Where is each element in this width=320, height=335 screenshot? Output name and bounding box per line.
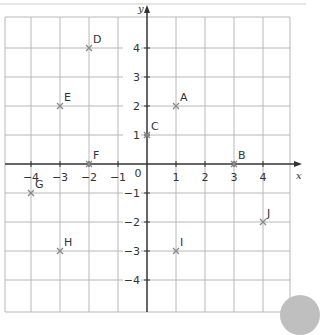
corner-decoration bbox=[280, 295, 320, 335]
x-axis-label: x bbox=[296, 170, 302, 181]
y-tick-label: 3 bbox=[133, 71, 140, 84]
point-label: D bbox=[93, 33, 101, 46]
y-tick-label: 2 bbox=[133, 100, 140, 113]
x-tick-label: 3 bbox=[231, 171, 238, 184]
y-axis-arrow-icon bbox=[144, 5, 150, 13]
x-tick-label: 2 bbox=[202, 171, 209, 184]
x-tick-label: −1 bbox=[110, 171, 126, 184]
point-label: H bbox=[64, 236, 72, 249]
y-tick-label: 4 bbox=[133, 42, 140, 55]
x-axis-arrow-icon bbox=[294, 161, 302, 167]
y-tick-label: −3 bbox=[124, 245, 140, 258]
x-tick-label: −2 bbox=[81, 171, 97, 184]
y-tick-label: −2 bbox=[124, 216, 140, 229]
y-tick-label: −1 bbox=[124, 187, 140, 200]
point-label: G bbox=[35, 178, 44, 191]
point-label: F bbox=[93, 149, 99, 162]
x-tick-label: 1 bbox=[173, 171, 180, 184]
y-axis-label: y bbox=[137, 3, 144, 14]
point-label: J bbox=[266, 207, 270, 220]
point-label: E bbox=[64, 91, 71, 104]
y-tick-label: 1 bbox=[133, 129, 140, 142]
point-label: C bbox=[151, 120, 159, 133]
point-label: B bbox=[238, 149, 246, 162]
x-tick-label: −3 bbox=[52, 171, 68, 184]
point-label: A bbox=[180, 91, 188, 104]
y-tick-label: −4 bbox=[124, 274, 140, 287]
point-label: I bbox=[180, 236, 183, 249]
axes: xy bbox=[5, 3, 302, 312]
origin-label: 0 bbox=[135, 167, 142, 180]
x-tick-label: 4 bbox=[260, 171, 267, 184]
